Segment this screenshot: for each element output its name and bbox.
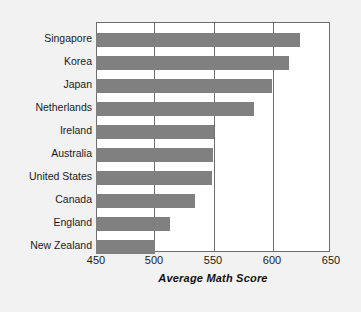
x-axis-title: Average Math Score bbox=[96, 272, 330, 284]
category-label-singapore: Singapore bbox=[4, 32, 92, 44]
category-label-korea: Korea bbox=[4, 55, 92, 67]
xtick-600: 600 bbox=[252, 254, 292, 266]
xtick-500: 500 bbox=[134, 254, 174, 266]
category-label-netherlands: Netherlands bbox=[4, 101, 92, 113]
xtick-550: 550 bbox=[193, 254, 233, 266]
xtick-450: 450 bbox=[76, 254, 116, 266]
category-label-united-states: United States bbox=[4, 170, 92, 182]
bar-japan bbox=[96, 79, 272, 93]
bar-united-states bbox=[96, 171, 212, 185]
category-label-japan: Japan bbox=[4, 78, 92, 90]
bar-australia bbox=[96, 148, 213, 162]
category-label-england: England bbox=[4, 216, 92, 228]
bar-ireland bbox=[96, 125, 214, 139]
bar-korea bbox=[96, 56, 289, 70]
category-label-ireland: Ireland bbox=[4, 124, 92, 136]
category-label-new-zealand: New Zealand bbox=[4, 239, 92, 251]
bar-canada bbox=[96, 194, 195, 208]
xtick-650: 650 bbox=[311, 254, 351, 266]
bar-new-zealand bbox=[96, 240, 155, 254]
category-label-canada: Canada bbox=[4, 193, 92, 205]
chart-figure: Singapore Korea Japan Netherlands Irelan… bbox=[0, 0, 361, 312]
bar-england bbox=[96, 217, 170, 231]
bar-netherlands bbox=[96, 102, 254, 116]
bar-singapore bbox=[96, 33, 300, 47]
category-label-australia: Australia bbox=[4, 147, 92, 159]
bars-layer bbox=[96, 22, 330, 252]
x-axis-tick-labels: 450 500 550 600 650 bbox=[0, 254, 361, 270]
category-axis-labels: Singapore Korea Japan Netherlands Irelan… bbox=[2, 22, 92, 252]
